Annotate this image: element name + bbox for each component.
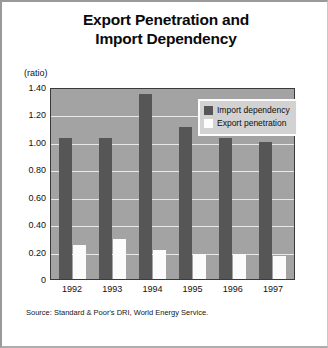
- legend-label-export: Export penetration: [217, 117, 286, 130]
- chart-title-line-1: Export Penetration and: [2, 10, 328, 29]
- bar-import-dependency[interactable]: [259, 142, 272, 279]
- x-axis: 199219931994199519961997: [50, 284, 295, 294]
- y-axis-tick-label: 0.60: [28, 193, 46, 203]
- bar-import-dependency[interactable]: [179, 127, 192, 279]
- bar-export-penetration[interactable]: [153, 250, 166, 279]
- y-axis-unit-label: (ratio): [24, 68, 48, 78]
- y-axis-tick-label: 1.20: [28, 110, 46, 120]
- bar-group: [93, 89, 133, 279]
- bar-group: [133, 89, 173, 279]
- bar-export-penetration[interactable]: [73, 245, 86, 279]
- y-axis-tick-label: 1.00: [28, 138, 46, 148]
- x-axis-tick-label: 1995: [173, 284, 213, 294]
- x-axis-tick-label: 1997: [253, 284, 293, 294]
- y-axis: 00.200.400.600.801.001.201.40: [10, 88, 46, 280]
- chart-title-line-2: Import Dependency: [2, 29, 328, 48]
- x-axis-tick-label: 1992: [52, 284, 92, 294]
- y-axis-tick-label: 1.40: [28, 83, 46, 93]
- bar-export-penetration[interactable]: [273, 256, 286, 279]
- x-axis-tick-label: 1994: [132, 284, 172, 294]
- bar-group: [53, 89, 93, 279]
- source-note: Source: Standard & Poor's DRI, World Ene…: [26, 308, 208, 317]
- y-axis-tick-label: 0: [41, 275, 46, 285]
- chart-legend: Import dependency Export penetration: [198, 99, 298, 136]
- chart-figure: Export Penetration and Import Dependency…: [0, 0, 328, 348]
- legend-label-import: Import dependency: [217, 104, 290, 117]
- legend-swatch-export-icon: [204, 119, 213, 128]
- x-axis-tick-label: 1993: [92, 284, 132, 294]
- y-axis-tick-label: 0.80: [28, 165, 46, 175]
- y-axis-tick-label: 0.20: [28, 248, 46, 258]
- bar-import-dependency[interactable]: [139, 94, 152, 279]
- bar-export-penetration[interactable]: [233, 254, 246, 279]
- legend-item-export: Export penetration: [204, 117, 290, 130]
- chart-title: Export Penetration and Import Dependency: [2, 10, 328, 48]
- bar-import-dependency[interactable]: [99, 138, 112, 279]
- x-axis-tick-label: 1996: [213, 284, 253, 294]
- bar-import-dependency[interactable]: [59, 138, 72, 279]
- bar-export-penetration[interactable]: [113, 239, 126, 279]
- legend-swatch-import-icon: [204, 106, 213, 115]
- legend-item-import: Import dependency: [204, 104, 290, 117]
- bar-import-dependency[interactable]: [219, 138, 232, 279]
- bar-export-penetration[interactable]: [193, 254, 206, 279]
- y-axis-tick-label: 0.40: [28, 220, 46, 230]
